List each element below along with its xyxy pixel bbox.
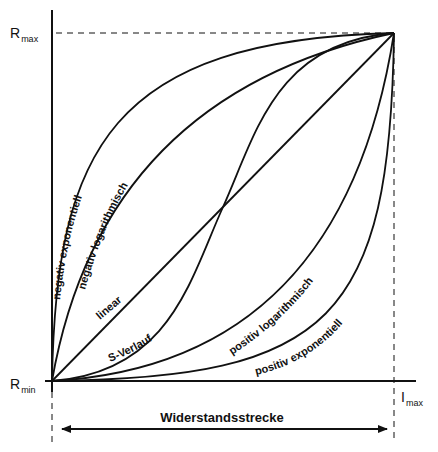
range-label: Widerstandsstrecke [160,410,283,425]
r-min-label: Rmin [10,376,36,395]
label-positiv-logarithmisch: positiv logarithmisch [226,274,315,356]
label-negativ-logarithmisch: negativ logarithmisch [75,180,130,291]
chart-canvas: negativ exponentiell negativ logarithmis… [0,0,438,452]
r-max-label: Rmax [10,25,39,44]
label-s-verlauf: S-Verlauf [106,332,154,364]
label-linear: linear [94,293,125,322]
i-max-label: Imax [401,389,423,408]
